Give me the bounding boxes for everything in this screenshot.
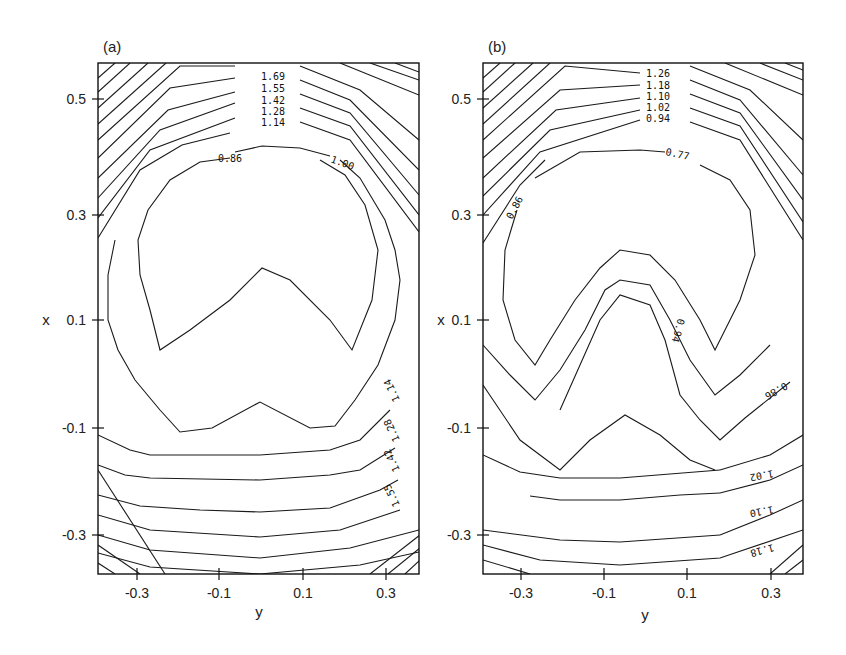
panel-b-contour-labels: 1.26 1.18 1.10 1.02 0.94 0.77 0.86 0.94 … bbox=[504, 68, 789, 559]
contour-label: 0.94 bbox=[646, 113, 670, 124]
contour-label: 1.18 bbox=[749, 542, 775, 559]
panel-b-contours bbox=[483, 63, 803, 574]
y-tick-label: -0.3 bbox=[447, 527, 471, 543]
panel-a-ticks bbox=[92, 99, 386, 580]
contour-label: 1.69 bbox=[261, 71, 285, 82]
contour-label: 1.14 bbox=[382, 377, 402, 403]
contour-label: 1.42 bbox=[261, 95, 285, 106]
contour-label: 1.55 bbox=[382, 482, 402, 508]
x-axis-label: y bbox=[255, 603, 263, 620]
y-axis-label: x bbox=[42, 311, 50, 328]
contour-label: 1.18 bbox=[646, 80, 670, 91]
y-tick-label: 0.1 bbox=[452, 312, 472, 328]
contour-label: 1.14 bbox=[261, 117, 285, 128]
panel-a-y-tick-labels: 0.5 0.3 0.1 -0.1 -0.3 bbox=[62, 91, 86, 543]
y-tick-label: 0.5 bbox=[67, 91, 87, 107]
y-tick-label: 0.1 bbox=[67, 312, 87, 328]
y-tick-label: 0.3 bbox=[452, 207, 472, 223]
x-tick-label: -0.3 bbox=[509, 585, 533, 601]
contour-label: 1.02 bbox=[646, 102, 670, 113]
y-tick-label: -0.1 bbox=[447, 420, 471, 436]
contour-label: 0.94 bbox=[670, 317, 687, 343]
contour-label: 1.26 bbox=[646, 68, 670, 79]
contour-label: 1.28 bbox=[261, 106, 285, 117]
contour-label: 0.86 bbox=[504, 195, 525, 221]
x-tick-label: -0.1 bbox=[592, 585, 616, 601]
x-axis-label: y bbox=[641, 606, 649, 623]
panel-b-ticks bbox=[477, 99, 771, 580]
x-tick-label: 0.1 bbox=[677, 585, 697, 601]
contour-label: 0.86 bbox=[763, 380, 789, 402]
y-axis-label: x bbox=[437, 311, 445, 328]
y-tick-label: -0.1 bbox=[62, 420, 86, 436]
panel-b: (b) bbox=[437, 38, 803, 623]
contour-figure: (a) bbox=[0, 0, 846, 655]
contour-label: 1.10 bbox=[646, 91, 670, 102]
contour-label: 1.42 bbox=[382, 447, 402, 473]
x-tick-label: -0.3 bbox=[125, 585, 149, 601]
x-tick-label: 0.3 bbox=[376, 585, 396, 601]
panel-a-contour-labels: 1.69 1.55 1.42 1.28 1.14 0.86 1.00 1.14 … bbox=[218, 71, 402, 509]
contour-label: 1.10 bbox=[749, 504, 775, 519]
contour-label: 1.28 bbox=[382, 417, 402, 443]
x-tick-label: -0.1 bbox=[207, 585, 231, 601]
contour-label: 1.55 bbox=[261, 83, 285, 94]
y-tick-label: 0.5 bbox=[452, 91, 472, 107]
x-tick-label: 0.1 bbox=[293, 585, 313, 601]
panel-a-x-tick-labels: -0.3 -0.1 0.1 0.3 bbox=[125, 585, 396, 601]
panel-b-x-tick-labels: -0.3 -0.1 0.1 0.3 bbox=[509, 585, 781, 601]
panel-a-label: (a) bbox=[103, 38, 121, 55]
panel-b-label: (b) bbox=[488, 38, 506, 55]
panel-a: (a) bbox=[42, 38, 420, 620]
panel-a-frame bbox=[98, 63, 419, 574]
contour-label: 0.77 bbox=[665, 146, 691, 162]
panel-a-contours bbox=[98, 63, 420, 574]
panel-b-frame bbox=[483, 63, 803, 574]
panel-b-y-tick-labels: 0.5 0.3 0.1 -0.1 -0.3 bbox=[447, 91, 471, 543]
y-tick-label: -0.3 bbox=[62, 527, 86, 543]
contour-label: 1.02 bbox=[749, 468, 775, 483]
contour-label: 0.86 bbox=[218, 153, 242, 164]
contour-label: 1.00 bbox=[329, 154, 355, 173]
x-tick-label: 0.3 bbox=[761, 585, 781, 601]
y-tick-label: 0.3 bbox=[67, 207, 87, 223]
